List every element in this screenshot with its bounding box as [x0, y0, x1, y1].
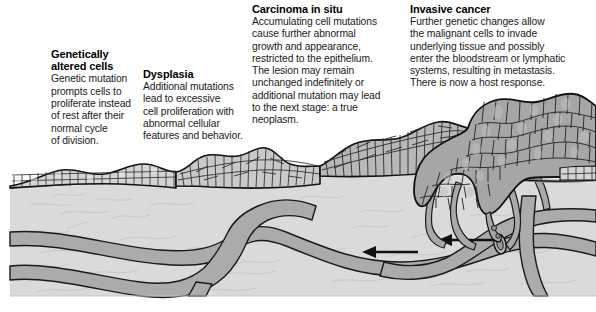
- caption-heading: Invasive cancer: [410, 3, 590, 15]
- caption-carcinoma-in-situ: Carcinoma in situ Accumulating cell muta…: [252, 3, 402, 127]
- caption-body: Accumulating cell mutationscause further…: [252, 16, 402, 127]
- caption-heading: Carcinoma in situ: [252, 3, 402, 15]
- caption-body: Further genetic changes allowthe maligna…: [410, 16, 590, 90]
- caption-body: Additional mutationslead to excessivecel…: [143, 81, 263, 142]
- dysplastic-epithelium: [176, 148, 320, 188]
- caption-dysplasia: Dysplasia Additional mutationslead to ex…: [143, 68, 263, 142]
- caption-heading: Dysplasia: [143, 68, 263, 80]
- caption-invasive-cancer: Invasive cancer Further genetic changes …: [410, 3, 590, 90]
- right-epithelium: [560, 166, 596, 180]
- normal-epithelium: [10, 164, 176, 188]
- figure-canvas: Geneticallyaltered cells Genetic mutatio…: [0, 0, 596, 312]
